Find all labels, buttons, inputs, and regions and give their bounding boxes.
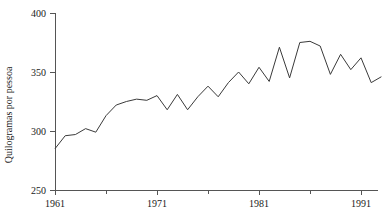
data-series-line: [55, 41, 381, 148]
y-tick-label-400: 400: [31, 8, 46, 19]
chart-container: Quilogramas por pessoa 400 350 300 250: [0, 0, 382, 222]
y-tick-label-300: 300: [31, 126, 46, 137]
x-tick-label-1991: 1991: [351, 198, 371, 209]
x-tick-label-1971: 1971: [147, 198, 167, 209]
y-axis-title: Quilogramas por pessoa: [3, 66, 14, 163]
y-tick-label-250: 250: [31, 185, 46, 196]
x-tick-label-1961: 1961: [45, 198, 65, 209]
y-axis-ticks: [50, 14, 55, 191]
x-tick-label-1981: 1981: [249, 198, 269, 209]
line-chart: Quilogramas por pessoa 400 350 300 250: [0, 0, 382, 222]
y-tick-label-350: 350: [31, 67, 46, 78]
